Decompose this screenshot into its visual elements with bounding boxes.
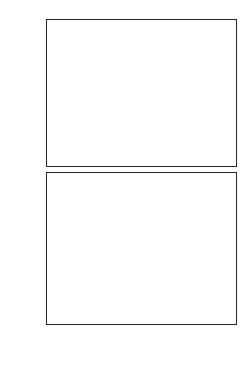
figure-root	[0, 0, 252, 369]
figure-background	[0, 0, 252, 369]
plot-canvas	[0, 0, 252, 369]
